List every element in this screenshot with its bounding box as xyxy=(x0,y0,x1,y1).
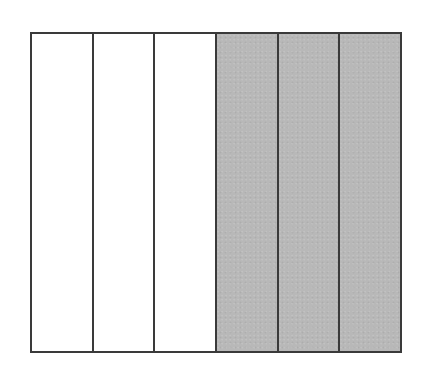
part-2-unshaded xyxy=(94,34,156,351)
part-3-unshaded xyxy=(155,34,217,351)
part-5-shaded xyxy=(279,34,341,351)
fraction-rectangle xyxy=(30,32,402,353)
part-6-shaded xyxy=(340,34,400,351)
part-1-unshaded xyxy=(32,34,94,351)
part-4-shaded xyxy=(217,34,279,351)
